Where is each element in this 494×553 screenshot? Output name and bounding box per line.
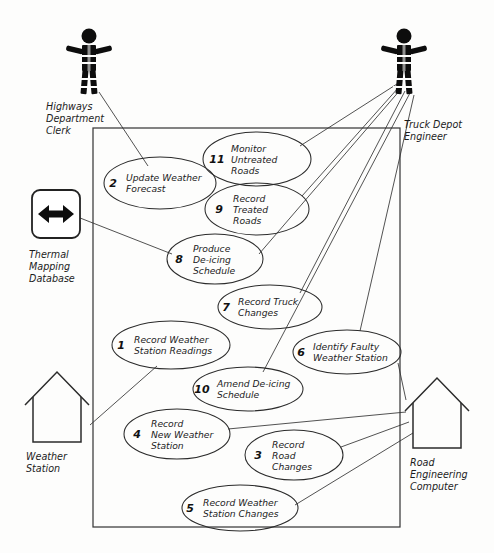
- use-case-label-line-2: Schedule: [193, 265, 236, 276]
- use-case-label-line-2: Station: [151, 440, 184, 451]
- use-case-label-line-1: New Weather: [151, 429, 214, 440]
- use-case-label-line-0: Record Weather: [134, 334, 210, 345]
- use-case-number: 1: [117, 339, 125, 352]
- use-case-label-line-1: Treated: [233, 204, 268, 215]
- association-engineer-record-truck-changes: [300, 91, 405, 293]
- use-case-label-line-0: Record Weather: [203, 497, 279, 508]
- use-case-10[interactable]: 10Amend De-icingSchedule: [193, 367, 303, 411]
- actor-label-highways-department-clerk-line-0: Highways: [46, 101, 92, 112]
- actor-highways-department-clerk[interactable]: Highways Department Clerk: [46, 29, 112, 137]
- use-case-5[interactable]: 5Record WeatherStation Changes: [182, 485, 298, 531]
- node-weather-station[interactable]: Weather Station: [25, 372, 89, 474]
- use-case-label-line-0: Monitor: [231, 143, 267, 154]
- association-road-computer-identify-faulty: [398, 363, 406, 400]
- use-case-label-line-1: Road: [272, 450, 296, 461]
- use-case-label-line-1: Station Readings: [134, 345, 212, 356]
- use-case-label-line-1: De-icing: [193, 254, 231, 265]
- use-case-1[interactable]: 1Record WeatherStation Readings: [112, 321, 230, 369]
- use-case-number: 7: [222, 301, 230, 314]
- association-road-computer-record-road-changes: [341, 422, 409, 447]
- use-case-label-line-2: Roads: [233, 215, 261, 226]
- use-case-label-line-1: Schedule: [217, 389, 260, 400]
- node-label-thermal-mapping-database-line-1: Mapping: [29, 261, 70, 272]
- use-case-3[interactable]: 3RecordRoadChanges: [245, 430, 343, 480]
- use-case-label-line-1: Weather Station: [313, 352, 388, 363]
- use-case-label-line-1: Forecast: [126, 183, 166, 194]
- house-icon: [405, 378, 469, 448]
- use-case-label-line-0: Identify Faulty: [313, 341, 380, 352]
- use-case-label-line-0: Record Truck: [238, 296, 299, 307]
- use-case-label-line-0: Record: [151, 418, 183, 429]
- use-case-label-line-0: Record: [233, 193, 265, 204]
- use-case-number: 3: [254, 449, 262, 462]
- use-case-label-line-0: Update Weather: [126, 172, 203, 183]
- association-engineer-produce-deicing: [259, 89, 401, 254]
- use-case-label-line-0: Record: [272, 439, 304, 450]
- use-case-label-line-0: Amend De-icing: [216, 378, 290, 389]
- association-road-computer-record-station-changes: [295, 433, 413, 505]
- node-label-weather-station-line-0: Weather: [26, 451, 68, 462]
- use-case-label-line-2: Roads: [231, 165, 259, 176]
- use-case-number: 4: [132, 428, 141, 441]
- use-case-number: 9: [215, 203, 223, 216]
- actor-label-highways-department-clerk-line-2: Clerk: [46, 125, 71, 136]
- use-case-label-line-2: Changes: [272, 461, 312, 472]
- association-clerk-update-weather-forecast: [99, 92, 148, 166]
- use-case-number: 5: [186, 502, 194, 515]
- actor-label-truck-depot-engineer-line-1: Engineer: [404, 131, 448, 142]
- node-label-weather-station-line-1: Station: [26, 463, 60, 474]
- node-label-road-engineering-computer-line-1: Engineering: [410, 469, 468, 480]
- use-case-2[interactable]: 2Update WeatherForecast: [104, 157, 216, 209]
- use-case-label-line-1: Changes: [238, 307, 278, 318]
- use-case-number: 6: [297, 346, 305, 359]
- node-label-thermal-mapping-database-line-2: Database: [29, 273, 75, 284]
- use-case-4[interactable]: 4RecordNew WeatherStation: [124, 409, 230, 459]
- node-thermal-mapping-database[interactable]: Thermal Mapping Database: [29, 190, 80, 284]
- use-case-layer: 11MonitorUntreatedRoads2Update WeatherFo…: [104, 132, 401, 531]
- use-case-label-line-0: Produce: [193, 243, 231, 254]
- actor-label-highways-department-clerk-line-1: Department: [46, 113, 105, 124]
- association-thermal-db-produce-deicing: [75, 216, 172, 254]
- node-road-engineering-computer[interactable]: Road Engineering Computer: [405, 378, 469, 492]
- use-case-label-line-1: Untreated: [231, 154, 277, 165]
- actor-label-truck-depot-engineer-line-0: Truck Depot: [404, 119, 463, 130]
- association-engineer-monitor-untreated: [300, 84, 397, 146]
- use-case-7[interactable]: 7Record TruckChanges: [218, 285, 322, 329]
- use-case-number: 2: [109, 177, 117, 190]
- use-case-number: 10: [194, 383, 210, 396]
- node-label-road-engineering-computer-line-2: Computer: [410, 481, 459, 492]
- use-case-diagram-canvas: 11MonitorUntreatedRoads2Update WeatherFo…: [0, 0, 494, 553]
- use-case-6[interactable]: 6Identify FaultyWeather Station: [293, 330, 401, 374]
- use-case-number: 8: [175, 253, 183, 266]
- stick-figure-icon: [381, 29, 428, 95]
- association-weather-station-record-readings: [90, 366, 157, 425]
- node-label-road-engineering-computer-line-0: Road: [410, 457, 435, 468]
- node-label-thermal-mapping-database-line-0: Thermal: [29, 249, 69, 260]
- use-case-9[interactable]: 9RecordTreatedRoads: [205, 183, 309, 235]
- stick-figure-icon: [66, 29, 113, 95]
- use-case-8[interactable]: 8ProduceDe-icingSchedule: [167, 234, 263, 284]
- house-icon: [25, 372, 89, 442]
- association-road-computer-record-new-station: [228, 412, 406, 429]
- use-case-label-line-1: Station Changes: [203, 508, 279, 519]
- use-case-number: 11: [209, 153, 224, 166]
- use-case-11[interactable]: 11MonitorUntreatedRoads: [203, 132, 311, 186]
